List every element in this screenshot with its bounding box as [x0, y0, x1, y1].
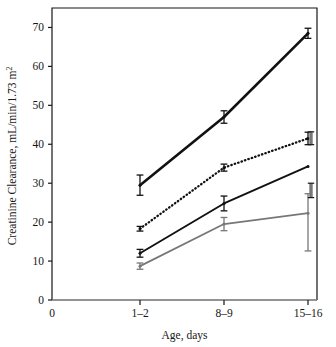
line-chart: 010203040506070 01–28–915–16 Age, days C…: [0, 0, 336, 347]
y-tick-label: 0: [38, 294, 44, 306]
y-tick-label: 50: [33, 99, 45, 111]
x-axis-title: Age, days: [162, 329, 209, 342]
data-point: [223, 223, 226, 226]
data-point: [307, 137, 310, 140]
chart-figure: 010203040506070 01–28–915–16 Age, days C…: [0, 0, 336, 347]
data-point: [223, 166, 226, 169]
y-tick-label: 70: [33, 21, 45, 33]
data-point: [139, 184, 142, 187]
data-point: [223, 202, 226, 205]
x-tick-label: 8–9: [215, 307, 233, 319]
x-tick-label: 0: [49, 307, 55, 319]
x-tick-label: 15–16: [294, 307, 323, 319]
data-point: [307, 165, 310, 168]
y-tick-label: 10: [33, 255, 45, 267]
data-point: [139, 265, 142, 268]
data-point: [307, 212, 310, 215]
chart-background: [0, 0, 336, 347]
y-tick-label: 40: [33, 138, 45, 150]
x-tick-label: 1–2: [131, 307, 149, 319]
y-tick-label: 20: [33, 216, 45, 228]
y-tick-label: 60: [33, 60, 45, 72]
data-point: [139, 252, 142, 255]
data-point: [139, 227, 142, 230]
y-axis-title: Creatinine Clearance, mL/min/1.73 m2: [5, 67, 19, 246]
y-tick-label: 30: [33, 177, 45, 189]
data-point: [307, 32, 310, 35]
data-point: [223, 116, 226, 119]
